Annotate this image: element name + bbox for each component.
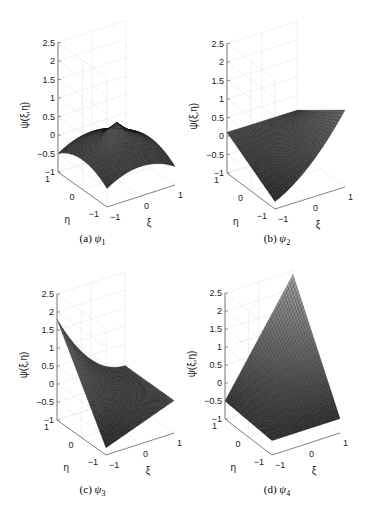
- caption-b: (b) ψ2: [185, 232, 369, 247]
- eta-tick-label: −1: [257, 211, 267, 221]
- eta-tick-label: 1: [45, 174, 50, 184]
- z-tick-label: 2: [217, 306, 222, 316]
- z-tick-label: 0.5: [42, 112, 55, 122]
- xi-axis-label: ξ: [147, 217, 152, 229]
- z-tick-label: 1: [49, 343, 54, 353]
- eta-axis-label: η: [233, 216, 239, 227]
- z-tick-label: 1.5: [209, 324, 222, 334]
- panel-d: −1−0.500.511.522.5−101−101ψ(ξ,η)ηξ (d) ψ…: [185, 257, 369, 515]
- z-tick-label: 2: [50, 56, 55, 66]
- xi-tick-label: −1: [278, 214, 288, 224]
- panel-b: −1−0.500.511.522.5−101−101ψ(ξ,η)ηξ (b) ψ…: [185, 0, 369, 258]
- z-tick-label: 2: [49, 307, 54, 317]
- z-tick-label: 1: [217, 342, 222, 352]
- xi-axis-label: ξ: [316, 219, 321, 231]
- eta-tick-label: −1: [88, 457, 98, 467]
- xi-tick-label: −1: [109, 460, 119, 470]
- eta-tick-label: 1: [44, 422, 49, 432]
- eta-tick-label: 0: [69, 192, 74, 202]
- eta-tick-label: 1: [214, 175, 219, 185]
- caption-subscript: 3: [101, 489, 105, 498]
- caption-subscript: 1: [101, 238, 105, 247]
- z-tick-label: 0.5: [41, 361, 54, 371]
- caption-label: (c): [80, 483, 92, 495]
- caption-subscript: 4: [286, 489, 290, 498]
- caption-label: (d): [264, 483, 277, 495]
- eta-tick-label: −1: [89, 209, 99, 219]
- caption-c: (c) ψ3: [0, 483, 185, 498]
- eta-tick-label: 0: [238, 193, 243, 203]
- eta-tick-label: 1: [212, 421, 217, 431]
- z-tick-label: 0: [219, 131, 224, 141]
- z-axis-label: ψ(ξ,η): [19, 102, 31, 129]
- z-tick-label: −0.5: [204, 396, 222, 406]
- z-tick-label: 0: [50, 130, 55, 140]
- z-tick-label: 0: [217, 378, 222, 388]
- xi-axis-label: ξ: [312, 465, 317, 477]
- xi-tick-label: 1: [178, 190, 183, 200]
- eta-axis-label: η: [64, 462, 70, 473]
- z-tick-label: 0.5: [211, 113, 224, 123]
- caption-subscript: 2: [286, 238, 290, 247]
- xi-tick-label: 0: [313, 203, 318, 213]
- z-tick-label: 2.5: [211, 39, 224, 49]
- eta-tick-label: 0: [235, 439, 240, 449]
- z-tick-label: 1.5: [41, 325, 54, 335]
- caption-a: (a) ψ1: [0, 232, 185, 247]
- z-tick-label: 1.5: [42, 75, 55, 85]
- xi-tick-label: 0: [144, 201, 149, 211]
- xi-tick-label: 1: [177, 438, 182, 448]
- z-tick-label: −0.5: [206, 150, 224, 160]
- xi-tick-label: −1: [275, 460, 285, 470]
- eta-tick-label: 0: [68, 440, 73, 450]
- panel-a: −1−0.500.511.522.5−101−101ψ(ξ,η)ηξ (a) ψ…: [0, 0, 185, 258]
- caption-label: (b): [264, 232, 277, 244]
- z-tick-label: 1.5: [211, 76, 224, 86]
- surface-plot-b: −1−0.500.511.522.5−101−101ψ(ξ,η)ηξ: [185, 0, 369, 258]
- z-axis-label: ψ(ξ,η): [188, 103, 200, 130]
- z-axis-label: ψ(ξ,η): [186, 351, 198, 378]
- surface-plot-d: −1−0.500.511.522.5−101−101ψ(ξ,η)ηξ: [185, 257, 369, 515]
- xi-tick-label: 1: [343, 438, 348, 448]
- xi-axis-label: ξ: [146, 465, 151, 477]
- z-tick-label: 0: [49, 379, 54, 389]
- z-tick-label: 0.5: [209, 360, 222, 370]
- z-tick-label: −0.5: [37, 149, 55, 159]
- z-axis-label: ψ(ξ,η): [18, 352, 30, 379]
- xi-tick-label: 0: [143, 449, 148, 459]
- z-tick-label: 2: [219, 57, 224, 67]
- xi-axis: [107, 185, 175, 207]
- xi-tick-label: −1: [110, 212, 120, 222]
- eta-axis-label: η: [65, 214, 71, 225]
- eta-tick-label: −1: [254, 457, 264, 467]
- z-tick-label: −0.5: [36, 397, 54, 407]
- z-tick-label: 2.5: [41, 289, 54, 299]
- eta-axis-label: η: [230, 462, 236, 473]
- surface-plot-a: −1−0.500.511.522.5−101−101ψ(ξ,η)ηξ: [0, 0, 185, 258]
- xi-tick-label: 1: [348, 192, 353, 202]
- caption-d: (d) ψ4: [185, 483, 369, 498]
- z-tick-label: 1: [50, 93, 55, 103]
- z-tick-label: 2.5: [209, 288, 222, 298]
- z-tick-label: 2.5: [42, 38, 55, 48]
- z-tick-label: 1: [219, 94, 224, 104]
- xi-tick-label: 0: [309, 449, 314, 459]
- caption-label: (a): [80, 232, 92, 244]
- surface-plot-c: −1−0.500.511.522.5−101−101ψ(ξ,η)ηξ: [0, 257, 185, 515]
- panel-c: −1−0.500.511.522.5−101−101ψ(ξ,η)ηξ (c) ψ…: [0, 257, 185, 515]
